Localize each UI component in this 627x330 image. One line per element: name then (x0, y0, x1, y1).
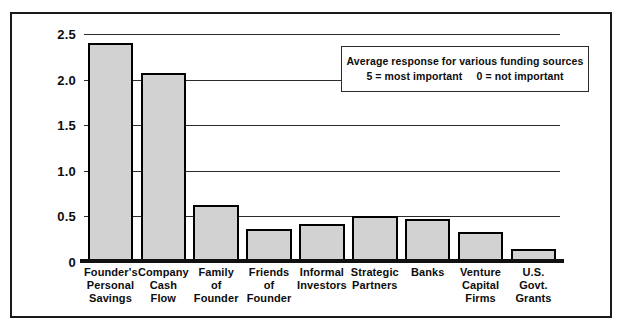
bar[interactable] (141, 73, 186, 262)
x-axis-baseline (80, 259, 564, 263)
bar[interactable] (352, 216, 397, 263)
bar[interactable] (405, 219, 450, 262)
y-tick-label: 0 (69, 256, 76, 269)
x-category-label: Founder'sPersonalSavings (84, 266, 137, 305)
bar-chart-figure: 00.51.01.52.02.5 Founder'sPersonalSaving… (0, 0, 627, 330)
x-category-label: StrategicPartners (348, 266, 401, 305)
legend-scale-min: 0 = not important (476, 70, 563, 82)
bar-slot (243, 34, 296, 262)
y-tick-label: 1.5 (57, 119, 76, 132)
y-tick-label: 2.0 (57, 73, 76, 86)
x-category-label: U.S.Govt.Grants (507, 266, 560, 305)
bar-slot (190, 34, 243, 262)
bar[interactable] (458, 232, 503, 262)
bar[interactable] (88, 43, 133, 262)
y-tick-label: 2.5 (57, 28, 76, 41)
x-category-label: InformalInvestors (296, 266, 349, 305)
y-tick-label: 1.0 (57, 164, 76, 177)
x-category-label: FamilyofFounder (190, 266, 243, 305)
legend-line-2: 5 = most important0 = not important (366, 69, 563, 84)
x-category-label: VentureCapitalFirms (454, 266, 507, 305)
x-axis-category-labels: Founder'sPersonalSavingsCompanyCashFlowF… (84, 266, 560, 305)
legend-line-1: Average response for various funding sou… (347, 54, 584, 69)
annotation-legend-box: Average response for various funding sou… (341, 46, 589, 92)
y-tick-label: 0.5 (57, 210, 76, 223)
bar[interactable] (299, 224, 344, 262)
y-axis-tick-labels: 00.51.01.52.02.5 (24, 34, 76, 262)
legend-scale-max: 5 = most important (366, 70, 462, 82)
x-category-label: FriendsofFounder (243, 266, 296, 305)
x-category-label: Banks (401, 266, 454, 305)
bar[interactable] (246, 229, 291, 262)
bar[interactable] (193, 205, 238, 262)
x-category-label: CompanyCashFlow (137, 266, 190, 305)
bar-slot (84, 34, 137, 262)
bar-slot (137, 34, 190, 262)
